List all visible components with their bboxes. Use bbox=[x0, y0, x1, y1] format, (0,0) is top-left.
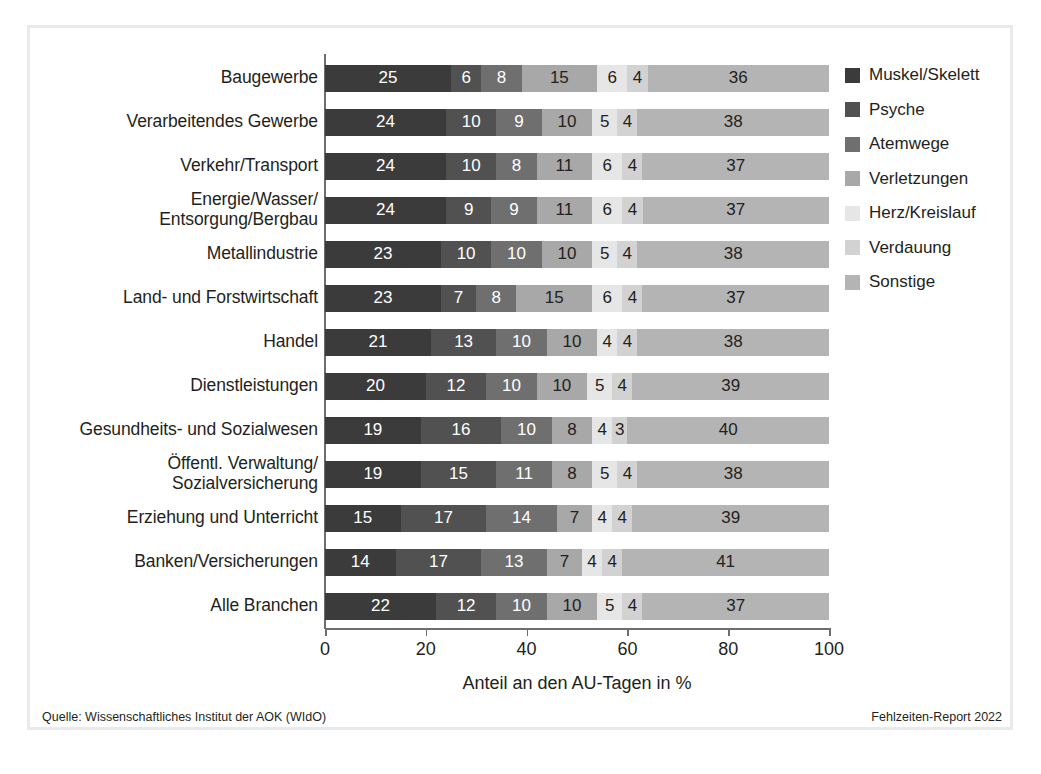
bar-segment-verletzungen: 11 bbox=[537, 197, 592, 224]
bar-segment-sonstige: 37 bbox=[642, 285, 828, 312]
bar-segment-psyche: 13 bbox=[431, 329, 497, 356]
bar-segment-atemwege: 10 bbox=[496, 329, 546, 356]
bar-segment-muskel-skelett: 24 bbox=[325, 153, 446, 180]
stacked-bar: 201210105439 bbox=[325, 373, 829, 400]
bar-segment-sonstige: 41 bbox=[622, 549, 829, 576]
bar-row: 24109105438 bbox=[325, 100, 829, 144]
category-label-line: Alle Branchen bbox=[210, 596, 318, 616]
bar-segment-psyche: 12 bbox=[426, 373, 486, 400]
stacked-bar: 211310104438 bbox=[325, 329, 829, 356]
bar-segment-muskel-skelett: 23 bbox=[325, 285, 441, 312]
category-label: Metallindustrie bbox=[40, 232, 318, 276]
legend-item-psyche: Psyche bbox=[845, 93, 1015, 128]
legend-label: Muskel/Skelett bbox=[869, 65, 980, 85]
bar-segment-verletzungen: 7 bbox=[547, 549, 582, 576]
bar-segment-herz-kreislauf: 5 bbox=[597, 593, 622, 620]
bar-segment-muskel-skelett: 20 bbox=[325, 373, 426, 400]
x-axis-tick bbox=[728, 628, 730, 636]
bar-segment-verdauung: 4 bbox=[602, 549, 622, 576]
bar-segment-atemwege: 10 bbox=[486, 373, 536, 400]
bar-segment-sonstige: 36 bbox=[648, 65, 829, 92]
bar-segment-herz-kreislauf: 6 bbox=[592, 197, 622, 224]
x-axis-tick bbox=[627, 628, 629, 636]
bar-row: 201210105439 bbox=[325, 364, 829, 408]
bar-segment-verletzungen: 15 bbox=[516, 285, 592, 312]
bar-segment-herz-kreislauf: 6 bbox=[592, 285, 622, 312]
legend-item-sonstige: Sonstige bbox=[845, 265, 1015, 300]
stacked-bar: 2568156436 bbox=[325, 65, 829, 92]
bar-segment-verletzungen: 10 bbox=[547, 329, 597, 356]
legend-swatch-psyche bbox=[845, 102, 860, 117]
category-label-line: Verarbeitendes Gewerbe bbox=[127, 112, 318, 132]
bar-segment-psyche: 15 bbox=[421, 461, 497, 488]
bar-segment-psyche: 10 bbox=[441, 241, 491, 268]
stacked-bars: 2568156436241091054382410811643724991164… bbox=[325, 56, 829, 628]
category-label-line: Banken/Versicherungen bbox=[134, 552, 318, 572]
category-label-line: Energie/Wasser/ bbox=[159, 190, 318, 210]
category-label: Handel bbox=[40, 320, 318, 364]
category-label-line: Gesundheits- und Sozialwesen bbox=[80, 420, 318, 440]
bar-segment-sonstige: 39 bbox=[632, 373, 829, 400]
bar-segment-verdauung: 4 bbox=[622, 153, 642, 180]
legend-item-muskel-skelett: Muskel/Skelett bbox=[845, 58, 1015, 93]
legend-swatch-verletzungen bbox=[845, 171, 860, 186]
bar-row: 2499116437 bbox=[325, 188, 829, 232]
bar-row: 19151185438 bbox=[325, 452, 829, 496]
bar-segment-verdauung: 4 bbox=[617, 461, 637, 488]
bar-segment-atemwege: 14 bbox=[486, 505, 557, 532]
bar-segment-sonstige: 39 bbox=[632, 505, 829, 532]
bar-segment-muskel-skelett: 24 bbox=[325, 109, 446, 136]
bar-segment-psyche: 10 bbox=[446, 153, 496, 180]
legend-item-herz-kreislauf: Herz/Kreislauf bbox=[845, 196, 1015, 231]
bar-segment-verletzungen: 10 bbox=[542, 241, 592, 268]
bar-segment-verletzungen: 15 bbox=[522, 65, 598, 92]
bar-row: 211310104438 bbox=[325, 320, 829, 364]
bar-segment-verletzungen: 8 bbox=[552, 461, 592, 488]
bar-segment-psyche: 10 bbox=[446, 109, 496, 136]
bar-segment-verdauung: 4 bbox=[612, 373, 632, 400]
category-axis-labels: BaugewerbeVerarbeitendes GewerbeVerkehr/… bbox=[40, 56, 318, 628]
bar-segment-psyche: 16 bbox=[421, 417, 502, 444]
x-axis-tick bbox=[527, 628, 529, 636]
bar-segment-herz-kreislauf: 5 bbox=[592, 241, 617, 268]
bar-row: 231010105438 bbox=[325, 232, 829, 276]
bar-segment-verletzungen: 11 bbox=[537, 153, 592, 180]
bar-segment-herz-kreislauf: 5 bbox=[592, 109, 617, 136]
category-label-line: Handel bbox=[263, 332, 318, 352]
bar-segment-atemwege: 10 bbox=[501, 417, 551, 444]
bar-segment-herz-kreislauf: 4 bbox=[592, 505, 612, 532]
bar-segment-verdauung: 4 bbox=[612, 505, 632, 532]
bar-segment-atemwege: 13 bbox=[481, 549, 547, 576]
bar-segment-muskel-skelett: 21 bbox=[325, 329, 431, 356]
category-label: Erziehung und Unterricht bbox=[40, 496, 318, 540]
legend-label: Verletzungen bbox=[869, 169, 968, 189]
legend-swatch-muskel-skelett bbox=[845, 68, 860, 83]
bar-segment-sonstige: 37 bbox=[642, 153, 828, 180]
bar-segment-atemwege: 8 bbox=[481, 65, 521, 92]
source-note: Quelle: Wissenschaftliches Institut der … bbox=[42, 710, 326, 724]
bar-segment-muskel-skelett: 22 bbox=[325, 593, 436, 620]
bar-segment-psyche: 7 bbox=[441, 285, 476, 312]
stacked-bar: 2499116437 bbox=[325, 197, 829, 224]
bar-segment-atemwege: 10 bbox=[496, 593, 546, 620]
bar-segment-sonstige: 37 bbox=[643, 197, 829, 224]
bar-segment-verletzungen: 7 bbox=[557, 505, 592, 532]
bar-segment-muskel-skelett: 15 bbox=[325, 505, 401, 532]
bar-segment-atemwege: 8 bbox=[496, 153, 536, 180]
category-label: Baugewerbe bbox=[40, 56, 318, 100]
figure-frame: BaugewerbeVerarbeitendes GewerbeVerkehr/… bbox=[27, 25, 1013, 730]
bar-segment-psyche: 17 bbox=[396, 549, 482, 576]
stacked-bar: 221210105437 bbox=[325, 593, 829, 620]
bar-row: 221210105437 bbox=[325, 584, 829, 628]
stacked-bar: 19161084340 bbox=[325, 417, 829, 444]
report-note: Fehlzeiten-Report 2022 bbox=[871, 710, 1002, 724]
x-axis-tick bbox=[829, 628, 831, 636]
chart-legend: Muskel/SkelettPsycheAtemwegeVerletzungen… bbox=[845, 58, 1015, 300]
category-label-line: Entsorgung/Bergbau bbox=[159, 210, 318, 230]
category-label-line: Dienstleistungen bbox=[190, 376, 318, 396]
bar-segment-muskel-skelett: 23 bbox=[325, 241, 441, 268]
bar-segment-verdauung: 4 bbox=[617, 109, 637, 136]
x-axis-line bbox=[325, 628, 829, 630]
bar-segment-psyche: 17 bbox=[401, 505, 487, 532]
bar-segment-muskel-skelett: 19 bbox=[325, 417, 421, 444]
